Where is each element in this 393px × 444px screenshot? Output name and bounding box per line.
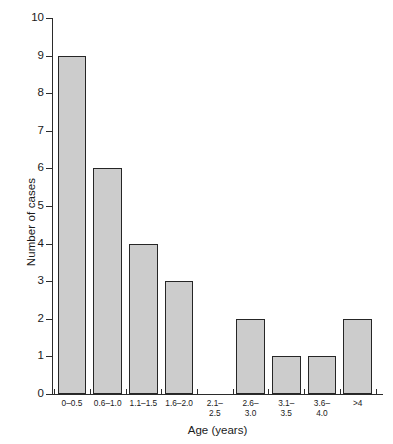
- x-axis-tick-label: 1.1–1.5: [125, 398, 162, 408]
- y-axis-tick: [46, 281, 52, 282]
- y-axis-title-label: Number of cases: [25, 178, 37, 266]
- y-axis-tick-label: 5: [4, 200, 44, 212]
- x-axis-tick: [90, 389, 91, 395]
- x-axis-tick-label: 3.6– 4.0: [303, 398, 340, 418]
- y-axis-tick: [46, 56, 52, 57]
- y-axis-tick-label: 6: [4, 162, 44, 174]
- y-axis-tick-label: 4: [4, 238, 44, 250]
- x-axis-tick-label: 2.6– 3.0: [232, 398, 269, 418]
- y-axis-tick-label: 10: [4, 12, 44, 24]
- y-axis-title: Number of cases: [22, 0, 44, 444]
- x-axis-tick: [197, 389, 198, 395]
- y-axis-tick: [46, 244, 52, 245]
- y-axis-tick-label: 7: [4, 125, 44, 137]
- x-axis-title: Age (years): [52, 424, 383, 436]
- y-axis-tick-label: 0: [4, 388, 44, 400]
- y-axis-tick: [46, 93, 52, 94]
- y-axis-tick: [46, 206, 52, 207]
- x-axis-tick: [340, 389, 341, 395]
- x-axis-tick: [304, 389, 305, 395]
- x-axis-tick-label: 0–0.5: [53, 398, 90, 408]
- x-axis-tick-label: >4: [339, 398, 376, 408]
- x-axis-tick: [268, 389, 269, 395]
- bar-chart: Number of cases 012345678910 0–0.50.6–1.…: [0, 0, 393, 444]
- bar: [308, 356, 337, 394]
- y-axis-tick: [46, 394, 52, 395]
- bar: [343, 319, 372, 394]
- y-axis-tick: [46, 319, 52, 320]
- y-axis-tick: [46, 131, 52, 132]
- x-axis-tick-label: 0.6–1.0: [89, 398, 126, 408]
- x-axis-tick: [161, 389, 162, 395]
- y-axis-tick-label: 3: [4, 275, 44, 287]
- bar: [129, 244, 158, 394]
- x-axis-tick-label: 3.1– 3.5: [268, 398, 305, 418]
- bar: [236, 319, 265, 394]
- bar: [93, 168, 122, 394]
- x-axis-tick-label: 2.1– 2.5: [196, 398, 233, 418]
- bar: [272, 356, 301, 394]
- y-axis-tick-label: 8: [4, 87, 44, 99]
- y-axis-tick: [46, 168, 52, 169]
- bar: [58, 56, 87, 394]
- x-axis-line: [52, 394, 383, 395]
- x-axis-tick: [376, 389, 377, 395]
- x-axis-tick: [233, 389, 234, 395]
- y-axis-tick-label: 9: [4, 50, 44, 62]
- y-axis-line: [52, 18, 53, 395]
- y-axis-tick: [46, 356, 52, 357]
- y-axis-tick-label: 1: [4, 350, 44, 362]
- x-axis-tick: [126, 389, 127, 395]
- bar: [165, 281, 194, 394]
- x-axis-tick-label: 1.6–2.0: [161, 398, 198, 408]
- x-axis-tick: [54, 389, 55, 395]
- y-axis-tick: [46, 18, 52, 19]
- y-axis-tick-label: 2: [4, 313, 44, 325]
